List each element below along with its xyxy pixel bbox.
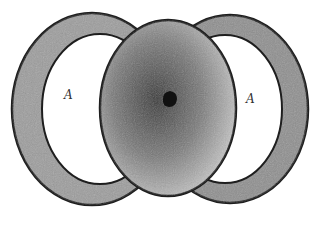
label-right-a: A bbox=[246, 92, 255, 106]
diagram-canvas bbox=[0, 0, 322, 225]
label-left-a: A bbox=[64, 88, 73, 102]
central-body bbox=[100, 20, 236, 196]
